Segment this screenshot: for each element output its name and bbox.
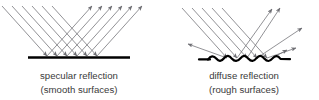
- reflection-diagram: specular reflection (smooth surfaces): [0, 0, 319, 100]
- specular-caption-line2: (smooth surfaces): [41, 84, 118, 95]
- specular-caption-line1: specular reflection: [40, 70, 118, 81]
- diffuse-caption-line1: diffuse reflection: [209, 70, 279, 81]
- diffuse-caption-line2: (rough surfaces): [209, 84, 279, 95]
